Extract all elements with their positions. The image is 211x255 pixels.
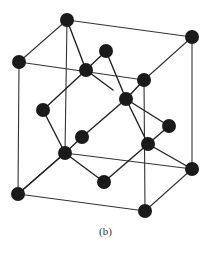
bond	[18, 153, 65, 194]
atom-corner-bottom-front-right	[138, 204, 152, 218]
atom-face-atom-upper	[99, 44, 113, 58]
cube-edge	[18, 62, 19, 194]
atom-interior-right	[141, 137, 155, 151]
atom-corner-top-back-left	[60, 13, 74, 27]
atom-face-atom-right	[162, 119, 176, 133]
atom-face-center-top	[79, 63, 93, 77]
cube-edge	[19, 20, 67, 62]
atom-face-atom-bottom	[97, 175, 111, 189]
bond	[148, 144, 192, 169]
atom-corner-bottom-front-left	[11, 187, 25, 201]
atom-corner-top-back-right	[185, 30, 199, 44]
bond	[43, 70, 86, 110]
cube-edge	[144, 37, 192, 80]
cube-edge	[67, 20, 192, 37]
atom-corner-bottom-back-right	[185, 162, 199, 176]
cube-edge	[145, 169, 192, 211]
atom-interior-left	[75, 130, 89, 144]
atom-interior-center	[119, 92, 133, 106]
atom-face-atom-left	[36, 103, 50, 117]
figure-caption: (b)	[0, 225, 211, 237]
atom-corner-top-front-right	[137, 73, 151, 87]
cube-edge	[18, 194, 145, 211]
bond	[43, 110, 65, 153]
atom-corner-bottom-back-left	[58, 146, 72, 160]
atom-corner-top-front-left	[12, 55, 26, 69]
diamond-cubic-crystal-structure	[0, 0, 211, 255]
bond	[82, 99, 126, 137]
bond	[67, 20, 86, 70]
cube-edge	[65, 20, 67, 153]
